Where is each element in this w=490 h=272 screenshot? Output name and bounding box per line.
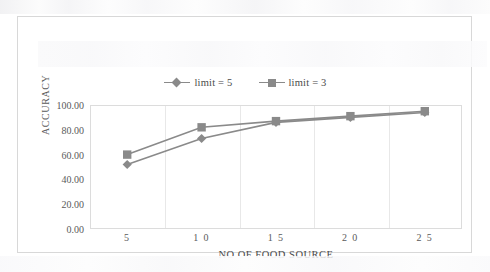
x-axis-tick: 2 0 [342, 232, 359, 243]
y-axis-tick: 40.00 [62, 174, 85, 185]
y-axis-tick: 20.00 [62, 199, 85, 210]
y-axis-title: ACCURACY [40, 75, 51, 135]
y-axis-tick: 100.00 [57, 100, 85, 111]
data-point-marker [197, 134, 206, 143]
square-marker-icon [259, 78, 285, 88]
y-axis-tick: 80.00 [62, 124, 85, 135]
legend-label-limit-5: limit = 5 [194, 77, 232, 88]
diamond-marker-icon [164, 78, 190, 88]
data-point-marker [123, 160, 132, 169]
data-point-marker [272, 117, 280, 125]
scan-artifact-top [0, 0, 490, 14]
x-axis-tick: 2 5 [416, 232, 433, 243]
x-axis-tick: 1 5 [268, 232, 285, 243]
series-layer [90, 105, 462, 229]
x-axis-tick: 5 [124, 232, 130, 243]
x-axis-title: NO OF FOOD SOURCE [90, 249, 462, 260]
plot-region [90, 105, 462, 229]
legend-entry-limit-3: limit = 3 [259, 77, 327, 88]
y-axis-tick: 0.00 [67, 224, 85, 235]
data-point-marker [346, 112, 354, 120]
legend-entry-limit-5: limit = 5 [164, 77, 232, 88]
data-point-marker [197, 123, 205, 131]
x-axis-tick-labels: 51 01 52 02 5 [90, 232, 462, 248]
y-axis-tick: 60.00 [62, 149, 85, 160]
chart-legend: limit = 5 limit = 3 [18, 77, 473, 88]
legend-label-limit-3: limit = 3 [289, 77, 327, 88]
data-point-marker [421, 107, 429, 115]
data-point-marker [123, 150, 131, 158]
x-axis-tick: 1 0 [193, 232, 210, 243]
y-axis-tick-labels: 0.0020.0040.0060.0080.00100.00 [18, 105, 88, 229]
scan-artifact-inner [38, 41, 487, 67]
chart-figure-frame: limit = 5 limit = 3 0.0020.0040.0060.008… [17, 16, 472, 253]
